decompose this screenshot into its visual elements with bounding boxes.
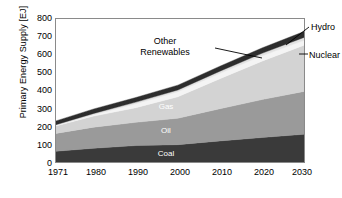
y-tick-200: 200	[22, 123, 52, 132]
y-tick-400: 400	[22, 86, 52, 95]
band-label-gas: Gas	[151, 103, 181, 111]
annotation-other-renewables-line2: Renewables	[135, 47, 195, 58]
x-tick-2000: 2000	[163, 168, 197, 177]
x-tick-1971: 1971	[41, 168, 75, 177]
x-tick-1980: 1980	[79, 168, 113, 177]
y-tick-100: 100	[22, 141, 52, 150]
y-tick-700: 700	[22, 32, 52, 41]
x-tick-2030: 2030	[285, 168, 319, 177]
y-tick-300: 300	[22, 105, 52, 114]
annotation-nuclear: Nuclear	[309, 50, 340, 60]
x-tick-1990: 1990	[121, 168, 155, 177]
y-tick-800: 800	[22, 14, 52, 23]
x-axis-tick-labels: 1971 1980 1990 2000 2010 2020 2030	[0, 168, 342, 184]
band-label-coal: Coal	[148, 150, 184, 158]
annotation-hydro: Hydro	[311, 22, 335, 32]
band-label-oil: Oil	[151, 127, 181, 135]
y-tick-600: 600	[22, 50, 52, 59]
x-tick-2010: 2010	[205, 168, 239, 177]
stacked-area-chart: Primary Energy Supply [EJ] 800 700 600 5…	[0, 0, 342, 198]
y-tick-500: 500	[22, 68, 52, 77]
x-tick-2020: 2020	[247, 168, 281, 177]
annotation-other-renewables-line1: Other	[135, 36, 195, 47]
annotation-other-renewables: Other Renewables	[135, 36, 195, 58]
